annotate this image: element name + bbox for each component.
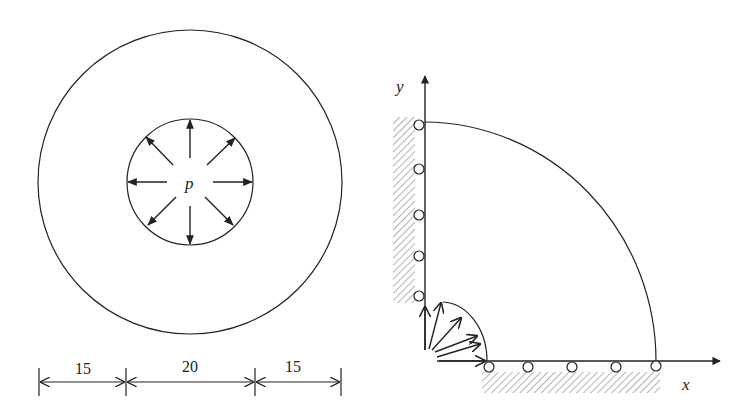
dimension-label-left: 15 [75, 360, 91, 377]
roller [414, 164, 424, 174]
roller [611, 362, 621, 372]
quarter-model: y x [393, 76, 720, 394]
pressure-label: p [184, 174, 194, 193]
y-axis-rollers [414, 120, 424, 301]
outer-arc [425, 122, 656, 361]
dimension-label-right: 15 [285, 358, 301, 375]
x-axis-label: x [681, 375, 690, 394]
roller [651, 361, 661, 371]
roller [414, 120, 424, 130]
dimension-label-middle: 20 [182, 358, 198, 375]
cylinder-cross-section: p 15 20 15 [38, 30, 342, 396]
diagram-canvas: p 15 20 15 y x [0, 0, 754, 412]
roller [484, 362, 494, 372]
roller [414, 210, 424, 220]
roller [523, 362, 533, 372]
x-axis-support-hatch [482, 372, 660, 393]
x-axis-rollers [484, 361, 661, 372]
roller [414, 291, 424, 301]
roller [567, 362, 577, 372]
quarter-pressure-arrows [425, 303, 485, 361]
y-axis-label: y [394, 77, 404, 96]
roller [414, 251, 424, 261]
y-axis-support-hatch [393, 117, 415, 303]
